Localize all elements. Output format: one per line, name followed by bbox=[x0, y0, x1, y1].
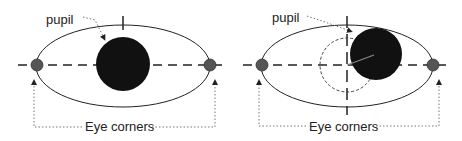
eye-corners-pointer bbox=[259, 82, 306, 126]
eye-corners-label: Eye corners bbox=[85, 119, 155, 134]
pupil-pointer bbox=[307, 16, 350, 31]
eye-corners-pointer bbox=[34, 82, 82, 127]
eye-corners-pointer bbox=[152, 82, 215, 127]
eye-corner-right bbox=[427, 59, 439, 71]
panel-centered-pupil: pupil Eye corners bbox=[18, 12, 222, 134]
eye-corner-left bbox=[256, 59, 268, 71]
pupil bbox=[350, 28, 402, 80]
pupil bbox=[96, 37, 150, 91]
eye-corners-label: Eye corners bbox=[309, 119, 379, 134]
pupil-label: pupil bbox=[46, 12, 74, 27]
pupil-label: pupil bbox=[272, 10, 300, 25]
eye-corner-left bbox=[31, 59, 43, 71]
eye-corner-right bbox=[204, 59, 216, 71]
eye-corners-pointer bbox=[376, 82, 439, 126]
eye-tracking-diagram: pupil Eye corners pupil Eye corners bbox=[0, 0, 462, 141]
panel-displaced-pupil: pupil Eye corners bbox=[243, 10, 446, 134]
